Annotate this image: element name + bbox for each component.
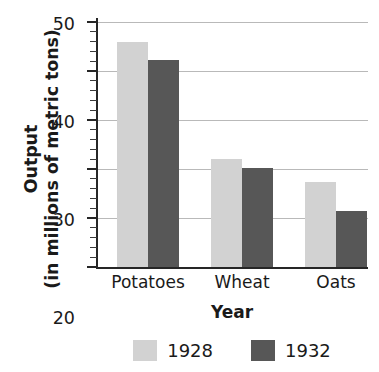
bar-wheat-1932 bbox=[242, 168, 273, 267]
gridline bbox=[96, 22, 368, 23]
bar-potatoes-1928 bbox=[117, 42, 148, 267]
y-tick-major: 40 bbox=[87, 70, 98, 72]
y-tick-major: 30 bbox=[87, 119, 98, 121]
bar-wheat-1928 bbox=[211, 159, 242, 267]
y-tick-minor bbox=[90, 61, 97, 62]
y-axis-title: Output (in millions of metric tons) bbox=[19, 25, 65, 293]
y-tick-minor bbox=[90, 208, 97, 209]
x-axis-title: Year bbox=[96, 304, 368, 321]
y-tick-minor bbox=[90, 41, 97, 42]
y-tick-minor bbox=[90, 51, 97, 52]
y-tick-minor bbox=[90, 149, 97, 150]
y-tick-major: 50 bbox=[87, 21, 98, 23]
chart-legend: 19281932 bbox=[96, 340, 368, 361]
y-tick-minor bbox=[90, 129, 97, 130]
y-tick-minor bbox=[90, 100, 97, 101]
legend-label-1932: 1932 bbox=[285, 342, 331, 360]
y-tick-minor bbox=[90, 178, 97, 179]
y-axis-title-line2: (in millions of metric tons) bbox=[42, 29, 63, 289]
plot-wrapper: 01020304050 PotatoesWheatOats Year bbox=[96, 18, 368, 270]
y-tick-major: 20 bbox=[87, 168, 98, 170]
legend-label-1928: 1928 bbox=[167, 342, 213, 360]
y-tick-minor bbox=[90, 198, 97, 199]
y-tick-minor bbox=[90, 159, 97, 160]
x-tick-label-potatoes: Potatoes bbox=[111, 274, 185, 291]
y-tick-major: 0 bbox=[87, 266, 98, 268]
y-tick-minor bbox=[90, 188, 97, 189]
x-axis-line bbox=[96, 267, 368, 269]
legend-swatch-1932 bbox=[251, 340, 275, 361]
bar-chart-figure: Output (in millions of metric tons) 0102… bbox=[0, 0, 379, 372]
y-tick-minor bbox=[90, 139, 97, 140]
legend-item-1928: 1928 bbox=[133, 340, 213, 361]
y-axis-line bbox=[96, 18, 98, 269]
y-tick-major: 10 bbox=[87, 217, 98, 219]
bar-oats-1928 bbox=[305, 182, 336, 267]
bar-oats-1932 bbox=[336, 211, 367, 267]
y-tick-minor bbox=[90, 31, 97, 32]
plot-area: 01020304050 bbox=[96, 18, 368, 268]
x-tick-label-oats: Oats bbox=[316, 274, 355, 291]
y-tick-label: 40 bbox=[53, 114, 75, 132]
y-tick-label: 50 bbox=[53, 16, 75, 34]
y-tick-minor bbox=[90, 90, 97, 91]
y-tick-minor bbox=[90, 237, 97, 238]
y-tick-minor bbox=[90, 80, 97, 81]
x-tick-label-wheat: Wheat bbox=[214, 274, 269, 291]
legend-item-1932: 1932 bbox=[251, 340, 331, 361]
legend-swatch-1928 bbox=[133, 340, 157, 361]
y-tick-minor bbox=[90, 247, 97, 248]
y-tick-label: 20 bbox=[53, 310, 75, 328]
y-tick-minor bbox=[90, 110, 97, 111]
y-tick-label: 30 bbox=[53, 212, 75, 230]
y-tick-minor bbox=[90, 227, 97, 228]
bar-potatoes-1932 bbox=[148, 60, 179, 267]
y-axis-title-line1: Output bbox=[21, 125, 42, 193]
y-tick-minor bbox=[90, 257, 97, 258]
